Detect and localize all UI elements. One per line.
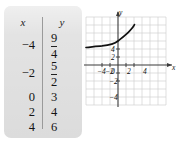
grid-lines [86,17,166,105]
x-axis-label: x [172,63,175,72]
y-tick-label: −2 [109,77,118,86]
table-row: −4 [4,39,42,52]
origin-label: 0 [111,67,115,76]
figure-root: x −4 −2 0 2 4 y 9 4 [0,0,181,155]
table-header-y: y [43,16,81,28]
table-row: 9 4 [43,32,81,60]
graph-svg [84,8,179,112]
value-table-panel: x −4 −2 0 2 4 y 9 4 [4,6,82,138]
x-tick-label: 2 [127,67,131,76]
y-tick-label: 2 [111,53,115,62]
y-tick-label: −4 [109,93,118,102]
fraction-numerator: 5 [51,60,57,73]
table-row: 4 [43,106,81,119]
fraction-denominator: 2 [51,76,57,89]
axis-lines [84,12,172,107]
fraction-5-over-2: 5 2 [51,60,57,88]
table-row: −2 [4,67,42,80]
coordinate-graph: −4 −2 2 4 0 4 2 −2 −4 y x [84,8,179,112]
x-tick-label: 4 [143,67,147,76]
table-row: 4 [4,121,42,134]
table-header-x: x [4,16,42,28]
fraction-numerator: 9 [51,32,57,45]
table-row: 5 2 [43,60,81,88]
table-row: 3 [43,91,81,104]
table-row: 2 [4,106,42,119]
table-row: 0 [4,91,42,104]
table-row: 6 [43,121,81,134]
y-axis-label: y [119,8,122,17]
value-table: x −4 −2 0 2 4 y 9 4 [4,6,82,138]
fraction-9-over-4: 9 4 [51,32,57,60]
